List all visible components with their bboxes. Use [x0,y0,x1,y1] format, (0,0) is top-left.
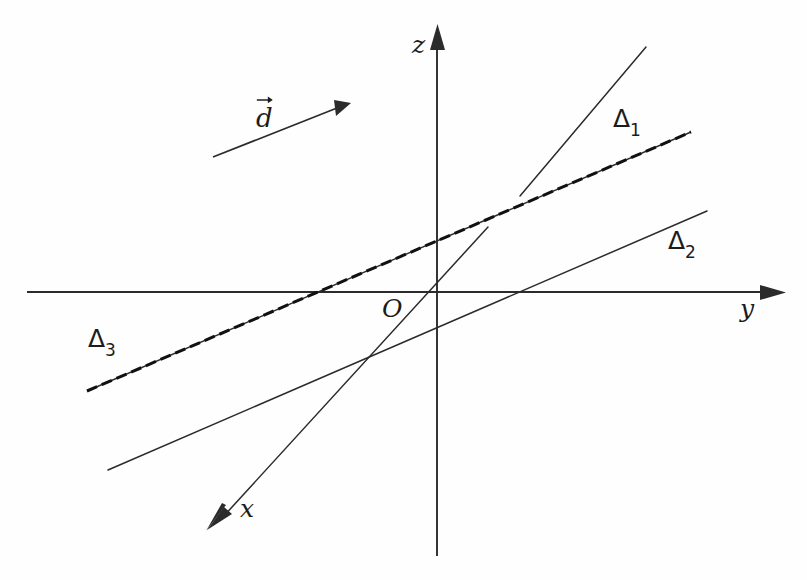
vector-accent-arrow-icon [256,94,273,103]
geometry-figure: z y x O d Δ1 Δ2 Δ3 [0,0,807,580]
delta-3-symbol: Δ [88,324,105,353]
delta-1-subscript: 1 [630,120,641,140]
x-axis [206,227,488,531]
direction-vector-d [213,100,351,157]
delta-3-subscript: 3 [105,340,116,360]
x-axis-line [222,227,488,518]
y-axis-arrowhead [760,285,786,300]
line-label-delta-1: Δ1 [613,106,641,136]
origin-label: O [382,296,403,321]
line-delta-2 [108,211,707,470]
z-axis-label: z [412,32,425,57]
delta-1-symbol: Δ [613,104,630,133]
y-axis-label: y [740,296,754,321]
line-label-delta-2: Δ2 [668,228,696,258]
delta-2-segment [108,211,707,470]
z-axis-arrowhead [430,24,445,50]
y-axis [27,285,786,300]
line-delta-3 [87,132,691,391]
delta-2-subscript: 2 [685,242,696,262]
vector-d-glyph-wrap: d [256,105,273,131]
z-axis [430,24,445,556]
line-label-delta-3: Δ3 [88,326,116,356]
vector-d-line [213,108,337,157]
x-axis-label: x [240,496,254,521]
figure-canvas [0,0,807,580]
delta-2-symbol: Δ [668,226,685,255]
vector-d-arrowhead [334,100,351,116]
vector-d-letter: d [256,103,273,133]
vector-d-label: d [256,105,273,131]
